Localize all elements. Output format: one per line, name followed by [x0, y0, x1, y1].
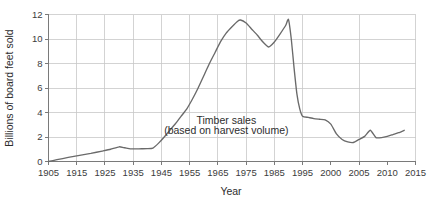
- x-tick-label: 1955: [179, 167, 200, 178]
- y-tick-label: 2: [37, 131, 42, 142]
- x-tick-label: 2000: [320, 167, 341, 178]
- x-tick-label: 1915: [66, 167, 87, 178]
- x-tick-label: 1965: [207, 167, 228, 178]
- timber-sales-chart: 024681012 190519151925193519451955196519…: [0, 0, 438, 199]
- y-tick-label: 10: [32, 33, 43, 44]
- y-tick-label: 12: [32, 9, 43, 20]
- x-tick-label: 1945: [151, 167, 172, 178]
- x-tick-label: 1995: [292, 167, 313, 178]
- x-tick-label: 1935: [123, 167, 144, 178]
- y-tick-label: 4: [37, 107, 42, 118]
- x-tick-label: 1985: [264, 167, 285, 178]
- x-tick-label: 1905: [38, 167, 59, 178]
- y-tick-label: 8: [37, 58, 42, 69]
- x-axis-title: Year: [220, 185, 242, 197]
- x-tick-label: 1975: [236, 167, 257, 178]
- x-tick-label: 2005: [348, 167, 369, 178]
- x-tick-label: 1925: [94, 167, 115, 178]
- series-label-line2: (based on harvest volume): [164, 124, 288, 136]
- y-tick-label: 6: [37, 82, 42, 93]
- x-tick-label: 2015: [405, 167, 426, 178]
- x-tick-label: 2010: [377, 167, 398, 178]
- y-tick-label: 0: [37, 156, 42, 167]
- y-axis-title: Billions of board feet sold: [3, 29, 15, 146]
- chart-canvas: 024681012 190519151925193519451955196519…: [0, 0, 438, 199]
